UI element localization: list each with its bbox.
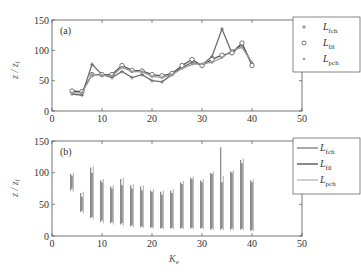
y-tick-label: 50 xyxy=(39,75,49,86)
y-tick-label: 150 xyxy=(34,136,49,147)
panel-a: 01020304050 050100150 (a) z / zf LfchLfi… xyxy=(9,15,360,125)
x-tick-label: 50 xyxy=(297,238,307,249)
panel-b-label: (b) xyxy=(60,146,72,158)
panel-a-series xyxy=(70,27,254,97)
x-tick-label: 20 xyxy=(147,113,157,124)
panel-a-label: (a) xyxy=(60,25,71,37)
x-tick-label: 40 xyxy=(247,238,257,249)
figure: 01020304050 050100150 (a) z / zf LfchLfi… xyxy=(0,0,361,275)
x-tick-label: 0 xyxy=(50,113,55,124)
x-tick-label: 10 xyxy=(97,113,107,124)
series-line-l-fch xyxy=(72,29,252,95)
x-tick-label: 20 xyxy=(147,238,157,249)
panel-a-y-ticks: 050100150 xyxy=(34,15,302,117)
y-tick-label: 0 xyxy=(44,106,49,117)
y-tick-label: 100 xyxy=(34,45,49,56)
y-tick-label: 100 xyxy=(34,167,49,178)
panel-b: 01020304050 050100150 (b) z / zf Ke Lfch… xyxy=(9,136,360,267)
x-tick-label: 50 xyxy=(297,113,307,124)
x-axis-title: Ke xyxy=(168,253,179,266)
x-tick-label: 10 xyxy=(97,238,107,249)
panel-a-ylabel: z / zf xyxy=(9,60,22,80)
panel-b-plot-area xyxy=(52,141,302,236)
series-line-l-fil xyxy=(72,43,252,92)
x-tick-label: 30 xyxy=(197,113,207,124)
panel-a-x-ticks: 01020304050 xyxy=(50,20,308,124)
panel-b-legend: LfchLfilLpch xyxy=(293,138,360,194)
x-tick-label: 30 xyxy=(197,238,207,249)
panel-b-y-ticks: 050100150 xyxy=(34,136,302,242)
svg-text:z / zf: z / zf xyxy=(9,178,22,198)
y-tick-label: 150 xyxy=(34,15,49,26)
panel-b-series xyxy=(71,147,254,231)
panel-b-ylabel: z / zf xyxy=(9,178,22,198)
svg-text:Ke: Ke xyxy=(168,253,179,266)
panel-b-x-ticks: 01020304050 xyxy=(50,141,308,249)
svg-text:z / zf: z / zf xyxy=(9,60,22,80)
y-tick-label: 0 xyxy=(44,231,49,242)
x-tick-label: 0 xyxy=(50,238,55,249)
x-tick-label: 40 xyxy=(247,113,257,124)
y-tick-label: 50 xyxy=(39,199,49,210)
panel-a-legend: LfchLfilLpch xyxy=(293,17,360,72)
panel-a-plot-area xyxy=(52,20,302,111)
